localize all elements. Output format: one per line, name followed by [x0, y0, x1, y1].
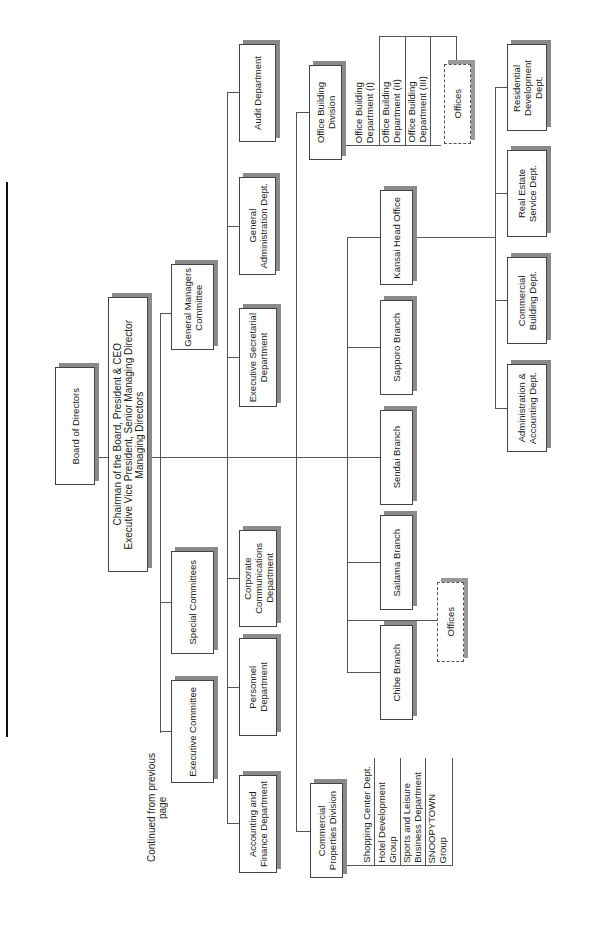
box-label: Personnel Department [247, 662, 269, 712]
executive-committee-box: Executive Committee [171, 680, 214, 783]
continued-label: Continued from previous page [146, 745, 160, 870]
commercial-properties-division-box: Commercial Properties Division [310, 783, 343, 878]
connector [495, 300, 507, 301]
audit-department-box: Audit Department [239, 44, 276, 142]
snoopytown-group: SNOOPYTOWN Group [426, 758, 450, 863]
connector [227, 357, 239, 358]
box-label: Kansai Head Office [391, 197, 402, 279]
connector [347, 237, 380, 238]
departments-trunk [227, 92, 228, 824]
connector [347, 672, 380, 673]
committees-trunk [160, 313, 161, 733]
executives-label: Chairman of the Board, President & CEO E… [112, 320, 145, 549]
connector [452, 758, 453, 865]
branch-offices-box: Offices [437, 582, 464, 662]
connector [160, 602, 171, 603]
list-label: Office Building Department (III) [406, 76, 428, 143]
office-building-dept-2: Office Building Department (II) [380, 40, 405, 143]
connector [160, 731, 171, 732]
box-label: Office Building Division [315, 82, 337, 143]
box-label: Offices [452, 89, 463, 118]
box-label: Special Committees [187, 560, 198, 644]
general-managers-committee-box: General Managers Committee [171, 264, 214, 350]
personnel-department-box: Personnel Department [239, 638, 277, 736]
corporate-communications-box: Corporate Communications Department [239, 530, 277, 627]
kansai-head-office-box: Kansai Head Office [380, 190, 413, 285]
office-building-offices-box: Offices [444, 64, 471, 144]
connector [227, 578, 239, 579]
connector [227, 823, 239, 824]
box-label: Corporate Communications Department [242, 543, 275, 614]
box-label: Audit Department [252, 56, 263, 130]
continued-label-text: Continued from previous page [146, 745, 168, 870]
list-label: Shopping Center Dept. [361, 766, 372, 863]
divisions-trunk [296, 112, 297, 832]
connector [495, 408, 507, 409]
connector [456, 36, 457, 64]
list-label: Office Building Department (II) [380, 79, 402, 143]
board-of-directors-box: Board of Directors [55, 367, 95, 485]
connector [343, 865, 453, 866]
real-estate-service-box: Real Estate Service Dept. [507, 150, 547, 237]
connector [227, 226, 239, 227]
hotel-development-group: Hotel Development Group [376, 758, 400, 863]
executive-secretarial-box: Executive Secretarial Department [239, 308, 277, 407]
board-label: Board of Directors [70, 388, 81, 465]
admin-accounting-box: Administration & Accounting Dept. [507, 364, 547, 452]
residential-development-box: Residential Development Dept. [507, 44, 547, 131]
connector [227, 92, 239, 93]
connector [347, 562, 380, 563]
connector [347, 620, 437, 621]
box-label: Chibe Branch [391, 644, 402, 702]
accounting-finance-box: Accounting and Finance Department [239, 775, 277, 873]
box-label: General Administration Dept. [247, 183, 269, 269]
connector [347, 457, 380, 458]
page-divider-rule [6, 182, 8, 737]
box-label: Sapporo Branch [391, 313, 402, 382]
office-building-division-box: Office Building Division [309, 65, 342, 160]
sapporo-branch-box: Sapporo Branch [380, 300, 413, 395]
chibe-branch-box: Chibe Branch [380, 625, 413, 720]
shopping-center-dept: Shopping Center Dept. [361, 758, 375, 863]
connector [347, 347, 380, 348]
connector [160, 313, 171, 314]
office-building-dept-1: Office Building Department (I) [353, 40, 379, 143]
connector [495, 193, 507, 194]
commercial-building-box: Commercial Building Dept. [507, 257, 547, 344]
sports-leisure-dept: Sports and Leisure Business Department [401, 758, 425, 863]
connector [379, 36, 456, 37]
sendai-branch-box: Sendai Branch [380, 410, 413, 505]
list-label: Sports and Leisure Business Department [401, 772, 423, 863]
executives-box: Chairman of the Board, President & CEO E… [108, 297, 148, 572]
connector [227, 687, 239, 688]
box-label: Offices [445, 607, 456, 636]
box-label: Residential Development Dept. [511, 60, 544, 116]
kansai-trunk [495, 87, 496, 409]
box-label: Commercial Properties Division [316, 791, 338, 870]
special-committees-box: Special Committees [171, 551, 214, 654]
list-label: Office Building Department (I) [353, 82, 375, 143]
connector [342, 145, 441, 146]
list-label: Hotel Development Group [376, 782, 398, 863]
branches-trunk [347, 237, 348, 673]
connector [495, 87, 507, 88]
box-label: Administration & Accounting Dept. [516, 372, 538, 444]
box-label: Real Estate Service Dept. [516, 165, 538, 222]
box-label: Executive Secretarial Department [247, 313, 269, 402]
box-label: General Managers Committee [182, 268, 204, 347]
box-label: Accounting and Finance Department [247, 781, 269, 867]
connector [413, 237, 495, 238]
box-label: Sendai Branch [391, 426, 402, 488]
office-building-dept-3: Office Building Department (III) [406, 40, 431, 143]
list-label: SNOOPYTOWN Group [426, 794, 448, 864]
connector [296, 831, 310, 832]
box-label: Commercial Building Dept. [516, 271, 538, 330]
connector [296, 112, 309, 113]
box-label: Saitama Branch [391, 529, 402, 597]
general-administration-box: General Administration Dept. [239, 177, 276, 275]
box-label: Executive Committee [187, 687, 198, 777]
saitama-branch-box: Saitama Branch [380, 515, 413, 610]
